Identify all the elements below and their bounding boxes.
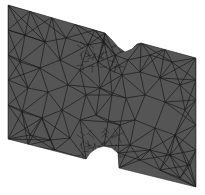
mesh-figure xyxy=(0,0,205,195)
